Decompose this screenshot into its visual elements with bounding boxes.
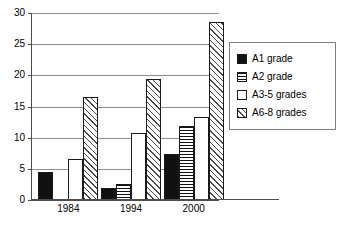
bar-chart: 051015202530 198419942000 A1 gradeA2 gra… bbox=[0, 0, 342, 225]
y-tick-label: 15 bbox=[14, 102, 25, 112]
y-tick-label: 20 bbox=[14, 70, 25, 80]
x-tick-label-1984: 1984 bbox=[57, 204, 79, 214]
bar-a6-8-grades-1984[interactable] bbox=[83, 97, 98, 200]
diagonal-hatch-swatch bbox=[237, 108, 247, 118]
legend-item-a3-5-grades[interactable]: A3-5 grades bbox=[237, 86, 329, 104]
x-tick-label-1994: 1994 bbox=[120, 204, 142, 214]
y-tick-label: 0 bbox=[19, 195, 25, 205]
bar-a2-grade-1994[interactable] bbox=[116, 184, 131, 200]
bar-a6-8-grades-2000[interactable] bbox=[209, 22, 224, 200]
x-axis-line bbox=[31, 199, 279, 200]
bar-group-1994 bbox=[101, 13, 161, 200]
legend-item-label: A2 grade bbox=[252, 72, 293, 82]
y-tick-mark-0 bbox=[28, 200, 32, 201]
legend-item-label: A3-5 grades bbox=[252, 90, 306, 100]
bar-a3-5-grades-1994[interactable] bbox=[131, 133, 146, 200]
horizontal-lines-swatch bbox=[237, 72, 247, 82]
bar-a3-5-grades-2000[interactable] bbox=[194, 117, 209, 200]
bar-group-1984 bbox=[38, 13, 98, 200]
bar-a6-8-grades-1994[interactable] bbox=[146, 79, 161, 200]
gridline-0 bbox=[31, 200, 219, 201]
bar-group-2000 bbox=[164, 13, 224, 200]
bar-group-bars bbox=[164, 13, 224, 200]
y-tick-label: 10 bbox=[14, 133, 25, 143]
solid-black-swatch bbox=[237, 54, 247, 64]
plot-area: 051015202530 bbox=[31, 13, 219, 200]
chart-legend: A1 gradeA2 gradeA3-5 gradesA6-8 grades bbox=[229, 42, 336, 130]
y-tick-label: 25 bbox=[14, 39, 25, 49]
bars-layer bbox=[31, 13, 219, 200]
y-tick-label: 30 bbox=[14, 8, 25, 18]
bar-a2-grade-2000[interactable] bbox=[179, 126, 194, 200]
white-empty-swatch bbox=[237, 90, 247, 100]
bar-group-bars bbox=[38, 13, 98, 200]
bar-a3-5-grades-1984[interactable] bbox=[68, 159, 83, 200]
bar-a1-grade-2000[interactable] bbox=[164, 154, 179, 200]
x-tick-label-2000: 2000 bbox=[183, 204, 205, 214]
legend-item-a6-8-grades[interactable]: A6-8 grades bbox=[237, 104, 329, 122]
legend-item-label: A6-8 grades bbox=[252, 108, 306, 118]
legend-item-label: A1 grade bbox=[252, 54, 293, 64]
bar-group-bars bbox=[101, 13, 161, 200]
legend-item-a2-grade[interactable]: A2 grade bbox=[237, 68, 329, 86]
bar-a1-grade-1984[interactable] bbox=[38, 172, 53, 200]
y-tick-label: 5 bbox=[19, 164, 25, 174]
legend-item-a1-grade[interactable]: A1 grade bbox=[237, 50, 329, 68]
